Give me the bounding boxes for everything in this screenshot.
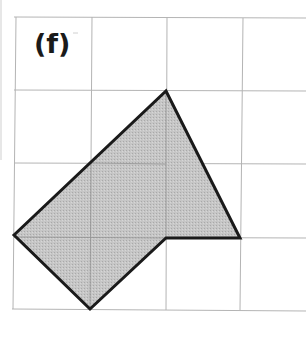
figure-label: (f)	[34, 28, 70, 59]
grid-horizontal-line	[14, 90, 306, 91]
grid-horizontal-line	[12, 309, 306, 311]
grid-horizontal-line	[14, 17, 306, 18]
